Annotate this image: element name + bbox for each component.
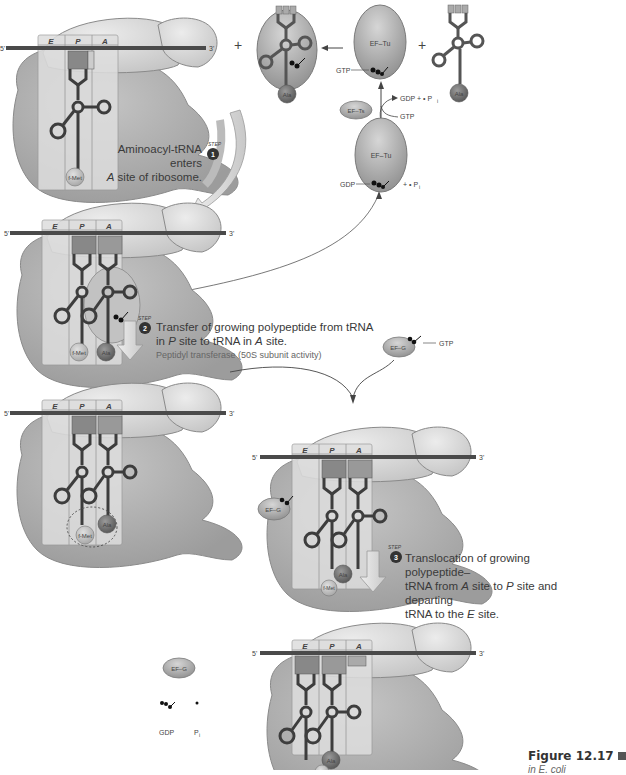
svg-text:GTP: GTP	[439, 340, 454, 347]
svg-text:5': 5'	[252, 454, 257, 461]
svg-text:A: A	[355, 446, 362, 455]
svg-text:EF–G: EF–G	[390, 345, 406, 351]
svg-text:GDP: GDP	[159, 729, 175, 736]
released-products: EF–G GDP P i	[159, 658, 200, 738]
svg-text:i: i	[199, 732, 200, 738]
ef-tu-trna-complex: Ala	[257, 6, 317, 103]
svg-text:A: A	[105, 222, 112, 231]
site-e-label: E	[48, 37, 54, 46]
ef-tu-gtp: EF–Tu GTP	[336, 5, 406, 79]
ribosome-5: E P A 5' 3' Ala f-Met	[252, 623, 492, 770]
fmet-label: f-Met	[68, 175, 82, 181]
svg-text:GTP: GTP	[336, 67, 351, 74]
svg-text:E: E	[302, 446, 308, 455]
svg-text:P: P	[79, 402, 85, 411]
svg-text:EF–Tu: EF–Tu	[370, 40, 391, 47]
svg-text:3: 3	[394, 554, 398, 561]
svg-text:3': 3'	[479, 454, 484, 461]
figure-square-icon	[618, 752, 626, 760]
merge-arrow-right	[353, 360, 394, 398]
svg-text:f-Met: f-Met	[72, 350, 86, 356]
mrna-strand	[6, 46, 206, 50]
svg-text:EF–G: EF–G	[265, 507, 281, 513]
svg-text:STEP: STEP	[388, 544, 402, 550]
svg-text:Ala: Ala	[102, 350, 111, 356]
svg-text:1: 1	[211, 151, 215, 158]
svg-text:P: P	[329, 642, 335, 651]
svg-text:STEP: STEP	[138, 315, 152, 321]
svg-text:f-Met: f-Met	[78, 533, 92, 539]
svg-text:3': 3'	[479, 650, 484, 657]
svg-text:i: i	[419, 184, 420, 190]
step-3-caption: Translocation of growing polypeptide– tR…	[405, 551, 588, 621]
svg-text:E: E	[52, 402, 58, 411]
free-aminoacyl-trna: Ala	[433, 5, 483, 102]
site-a-label: A	[101, 37, 108, 46]
figure-sublabel: in E. coli	[528, 764, 566, 775]
ef-tu-gdp: EF–Tu GDP + • P i	[340, 118, 420, 192]
svg-text:Ala: Ala	[103, 522, 112, 528]
plus-sign: +	[234, 37, 242, 53]
step-2-caption: Transfer of growing polypeptide from tRN…	[156, 320, 374, 362]
svg-text:3': 3'	[229, 410, 234, 417]
merge-arrow-left	[230, 367, 353, 398]
mrna-3-label: 3'	[209, 45, 214, 52]
svg-text:EF–Ts: EF–Ts	[347, 108, 364, 114]
ribosome-3: E P A 5' 3' f-Met Ala	[4, 383, 242, 567]
svg-text:P: P	[79, 222, 85, 231]
svg-text:f-Met: f-Met	[323, 585, 335, 591]
svg-text:5': 5'	[4, 230, 9, 237]
svg-text:5': 5'	[4, 410, 9, 417]
svg-text:P: P	[329, 446, 335, 455]
svg-text:Ala: Ala	[455, 91, 464, 97]
svg-text:Ala: Ala	[339, 572, 348, 578]
svg-text:3': 3'	[229, 230, 234, 237]
mrna-5-label: 5'	[0, 45, 5, 52]
svg-text:5': 5'	[252, 650, 257, 657]
svg-text:f-Met: f-Met	[316, 769, 328, 770]
svg-text:GDP: GDP	[340, 181, 356, 188]
svg-text:GTP: GTP	[400, 113, 415, 120]
svg-text:Ala: Ala	[283, 92, 292, 98]
svg-text:A: A	[355, 642, 362, 651]
figure-label: Figure 12.17	[528, 749, 626, 763]
svg-text:STEP: STEP	[208, 141, 222, 147]
svg-text:GDP + • P: GDP + • P	[400, 95, 432, 102]
svg-text:E: E	[302, 642, 308, 651]
step-1-caption: Aminoacyl-tRNA enters A site of ribosome…	[98, 142, 202, 184]
ef-g-gtp: EF–G GTP	[383, 336, 454, 357]
svg-text:Ala: Ala	[327, 758, 336, 764]
svg-text:EF–Tu: EF–Tu	[371, 152, 392, 159]
plus-sign-2: +	[418, 37, 426, 53]
site-p-label: P	[75, 37, 81, 46]
svg-text:+ • P: + • P	[403, 181, 418, 188]
svg-text:A: A	[105, 402, 112, 411]
svg-text:2: 2	[143, 325, 147, 332]
svg-text:E: E	[52, 222, 58, 231]
svg-text:EF–G: EF–G	[171, 666, 187, 672]
svg-text:i: i	[437, 98, 438, 104]
